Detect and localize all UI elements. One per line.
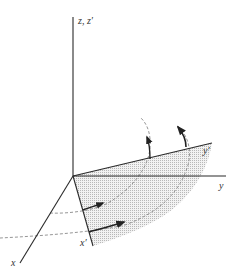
arrow-y-inner: [147, 137, 150, 159]
x-axis: [20, 176, 73, 263]
rotation-diagram: z, z′ y y′ x x′: [0, 0, 239, 277]
z-axis-label: z, z′: [77, 15, 94, 26]
y-axis-label: y: [218, 180, 224, 191]
x-axis-label: x: [10, 257, 16, 268]
y-prime-axis-label: y′: [202, 145, 210, 156]
x-prime-axis-label: x′: [79, 237, 87, 248]
